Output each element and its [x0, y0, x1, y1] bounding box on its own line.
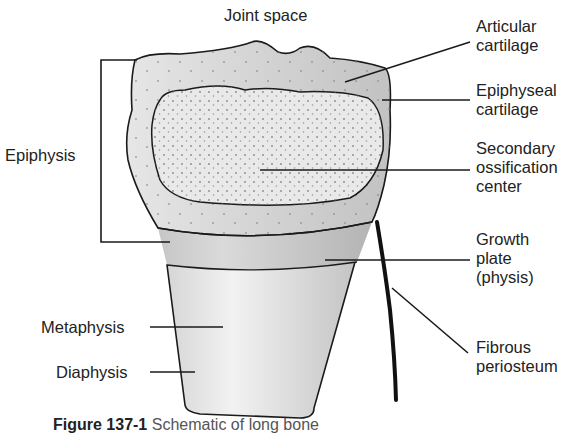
joint-space-label: Joint space	[224, 6, 307, 25]
figure-caption-text: Schematic of long bone	[152, 416, 319, 433]
fibrous-periosteum-label: Fibrous periosteum	[476, 338, 558, 376]
secondary-ossification-label: Secondary ossification center	[476, 139, 558, 196]
fibrous-periosteum-line	[377, 222, 396, 400]
diaphysis-label: Diaphysis	[56, 363, 128, 382]
figure-number: Figure 137-1	[53, 416, 147, 433]
epiphyseal-cartilage-label: Epiphyseal cartilage	[476, 81, 557, 119]
growth-plate-label: Growth plate (physis)	[476, 230, 534, 287]
figure-caption: Figure 137-1 Schematic of long bone	[53, 416, 319, 434]
shaft	[167, 262, 355, 418]
articular-cartilage-label: Articular cartilage	[476, 17, 538, 55]
epiphysis-label: Epiphysis	[5, 146, 76, 165]
metaphysis-label: Metaphysis	[41, 318, 124, 337]
